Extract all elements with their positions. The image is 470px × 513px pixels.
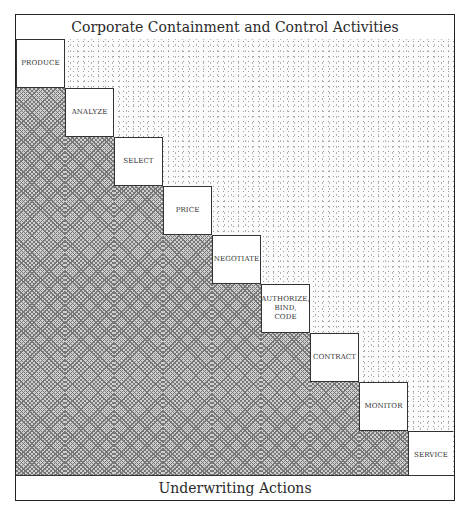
step-analyze: ANALYZE	[65, 88, 114, 137]
step-authorize-bind-code: AUTHORIZE, BIND, CODE	[261, 284, 310, 333]
step-contract: CONTRACT	[310, 333, 359, 382]
header-title: Corporate Containment and Control Activi…	[16, 15, 454, 40]
hatched-region-col-3	[114, 186, 163, 479]
footer-title: Underwriting Actions	[16, 475, 454, 500]
step-produce: PRODUCE	[16, 39, 65, 88]
hatched-region-col-7	[310, 382, 359, 479]
hatched-region-col-8	[359, 431, 408, 479]
diagram-frame: Corporate Containment and Control Activi…	[15, 14, 455, 501]
step-monitor: MONITOR	[359, 382, 408, 431]
hatched-region-col-6	[261, 333, 310, 479]
hatched-region-col-5	[212, 284, 261, 479]
step-price: PRICE	[163, 186, 212, 235]
step-service: SERVICE	[408, 431, 453, 480]
step-select: SELECT	[114, 137, 163, 186]
step-negotiate: NEGOTIATE	[212, 235, 261, 284]
hatched-region-col-4	[163, 235, 212, 479]
hatched-region-col-2	[65, 137, 114, 479]
hatched-region-col-1	[16, 88, 65, 479]
